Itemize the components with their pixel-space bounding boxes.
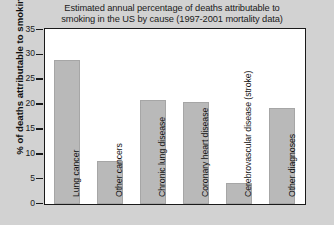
y-axis-tick-label: 35 <box>25 24 35 34</box>
y-axis-tick-mark <box>36 78 43 80</box>
y-axis-tick-label: 25 <box>25 73 35 83</box>
y-axis-tick-label: 5 <box>30 173 35 183</box>
bar-category-label: Cerebrovascular disease (stroke) <box>243 71 253 197</box>
y-axis-tick-mark <box>36 103 43 105</box>
chart-title: Estimated annual percentage of deaths at… <box>22 3 322 26</box>
y-axis-tick-label: 20 <box>25 98 35 108</box>
y-axis-tick-mark <box>36 128 43 130</box>
y-axis-tick-label: 0 <box>30 198 35 208</box>
plot-area: Lung cancerOther cancersChronic lung dis… <box>45 29 305 204</box>
bar-category-label: Other cancers <box>114 143 124 197</box>
chart-title-line-1: Estimated annual percentage of deaths at… <box>22 3 322 14</box>
chart-figure: Estimated annual percentage of deaths at… <box>0 0 334 225</box>
y-axis-label: % of deaths attributable to smoking <box>14 0 25 159</box>
y-axis-tick-label: 15 <box>25 123 35 133</box>
y-axis-tick-mark <box>36 29 43 31</box>
y-axis-tick-label: 30 <box>25 48 35 58</box>
bar-category-label: Chronic lung disease <box>157 117 167 197</box>
plot-frame: Lung cancerOther cancersChronic lung dis… <box>44 28 306 205</box>
chart-title-line-2: smoking in the US by cause (1997-2001 mo… <box>22 14 322 25</box>
y-axis-tick-mark <box>36 203 43 205</box>
y-axis-tick-mark <box>36 153 43 155</box>
bar-category-label: Other diagnoses <box>287 134 297 197</box>
bar-category-label: Lung cancer <box>71 150 81 197</box>
bar-category-label: Coronary heart disease <box>200 108 210 197</box>
y-axis-tick-mark <box>36 178 43 180</box>
y-axis-tick-mark <box>36 54 43 56</box>
y-axis-tick-label: 10 <box>25 148 35 158</box>
